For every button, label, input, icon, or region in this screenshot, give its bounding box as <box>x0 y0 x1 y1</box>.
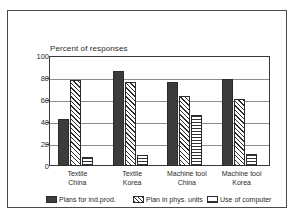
bar <box>113 71 124 166</box>
x-tick-label: TextileKorea <box>105 169 160 187</box>
legend-item: Use of computer <box>207 194 271 205</box>
bar-group <box>160 57 215 166</box>
bars-layer <box>50 57 269 166</box>
figure-frame: Percent of responses 100806040200 Textil… <box>7 10 287 208</box>
bar <box>82 157 93 166</box>
bar <box>70 80 81 166</box>
y-tick-label: 100 <box>25 52 49 61</box>
bar <box>234 99 245 166</box>
y-axis: 100806040200 <box>19 56 49 166</box>
x-tick-label-line: Textile <box>105 169 160 178</box>
bar-group <box>50 57 105 166</box>
x-tick-label: Machine toolKorea <box>214 169 269 187</box>
bar <box>179 96 190 166</box>
bar <box>58 119 69 166</box>
x-tick-label-line: Machine tool <box>214 169 269 178</box>
bar <box>246 154 257 166</box>
x-tick-label-line: Korea <box>105 178 160 187</box>
legend-swatch-icon <box>207 196 218 203</box>
x-tick-label: TextileChina <box>50 169 105 187</box>
x-tick-label-line: Machine tool <box>160 169 215 178</box>
bar <box>137 155 148 166</box>
chart-page: Percent of responses 100806040200 Textil… <box>0 0 298 219</box>
bar <box>167 82 178 166</box>
legend-label: Plans for ind.prod. <box>59 196 116 203</box>
chart-legend: Plans for ind.prod.Plan in phys. unitsUs… <box>46 194 278 205</box>
x-tick-label-line: Textile <box>50 169 105 178</box>
legend-swatch-icon <box>46 196 57 203</box>
legend-swatch-icon <box>133 196 144 203</box>
x-tick-label-line: Korea <box>214 178 269 187</box>
x-tick-label-line: China <box>50 178 105 187</box>
legend-item: Plans for ind.prod. <box>46 194 116 205</box>
chart-title: Percent of responses <box>50 44 128 53</box>
bar <box>191 115 202 166</box>
x-axis-labels: TextileChinaTextileKoreaMachine toolChin… <box>50 169 269 191</box>
legend-label: Use of computer <box>220 196 271 203</box>
bar-group <box>214 57 269 166</box>
y-tick-label: 0 <box>25 162 49 171</box>
legend-label: Plan in phys. units <box>146 196 203 203</box>
x-tick-label-line: China <box>160 178 215 187</box>
x-tick-label: Machine toolChina <box>160 169 215 187</box>
bar <box>125 82 136 166</box>
bar <box>222 79 233 166</box>
legend-item: Plan in phys. units <box>133 194 203 205</box>
bar-group <box>105 57 160 166</box>
